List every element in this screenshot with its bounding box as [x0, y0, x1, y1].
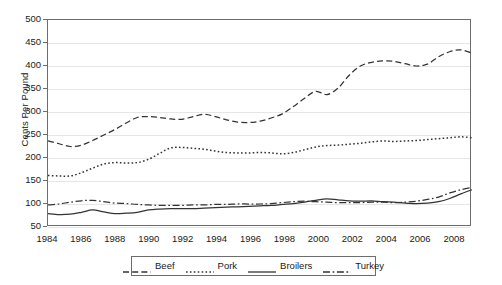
- x-tick-label: 1996: [240, 234, 261, 244]
- x-tick-label: 1998: [274, 234, 295, 244]
- legend-label: Beef: [155, 261, 175, 271]
- y-tick-label: 350: [7, 83, 41, 92]
- y-tick-label: 250: [7, 129, 41, 138]
- y-tick-label: 100: [7, 198, 41, 207]
- legend-item-beef[interactable]: Beef: [123, 261, 175, 271]
- legend-swatch-beef-icon: [123, 262, 151, 270]
- x-tick-label: 2000: [308, 234, 329, 244]
- x-tick-label: 2006: [410, 234, 431, 244]
- x-tick-label: 1994: [206, 234, 227, 244]
- y-tick-label: 200: [7, 152, 41, 161]
- x-axis-tick-labels: 1984198619881990199219941996199820002002…: [0, 230, 502, 246]
- legend-label: Pork: [218, 261, 238, 271]
- legend-label: Turkey: [355, 261, 384, 271]
- data-series-layer: [48, 20, 472, 227]
- x-tick-label: 1990: [138, 234, 159, 244]
- x-tick-label: 1992: [172, 234, 193, 244]
- x-tick-label: 1988: [104, 234, 125, 244]
- legend-swatch-pork-icon: [186, 262, 214, 270]
- series-line-broilers: [48, 190, 472, 215]
- x-tick-label: 2004: [376, 234, 397, 244]
- legend-swatch-turkey-icon: [323, 262, 351, 270]
- chart-legend: BeefPorkBroilersTurkey: [131, 256, 376, 276]
- y-tick-label: 400: [7, 60, 41, 69]
- x-tick-label: 2002: [342, 234, 363, 244]
- legend-item-turkey[interactable]: Turkey: [323, 261, 384, 271]
- y-tick-label: 500: [7, 14, 41, 23]
- x-tick-label: 1986: [70, 234, 91, 244]
- series-line-beef: [48, 50, 472, 147]
- series-line-pork: [48, 137, 472, 176]
- y-tick-label: 50: [7, 221, 41, 230]
- y-tick-mark: [43, 226, 47, 227]
- legend-item-broilers[interactable]: Broilers: [248, 261, 312, 271]
- price-line-chart: Cents Per Pound 500450400350300250200150…: [0, 0, 502, 285]
- plot-area: [47, 19, 471, 226]
- legend-swatch-broilers-icon: [248, 262, 276, 270]
- gridline: [48, 227, 470, 228]
- legend-item-pork[interactable]: Pork: [186, 261, 238, 271]
- y-tick-label: 150: [7, 175, 41, 184]
- y-tick-label: 300: [7, 106, 41, 115]
- legend-label: Broilers: [280, 261, 312, 271]
- x-tick-label: 2008: [443, 234, 464, 244]
- x-tick-label: 1984: [36, 234, 57, 244]
- y-tick-label: 450: [7, 37, 41, 46]
